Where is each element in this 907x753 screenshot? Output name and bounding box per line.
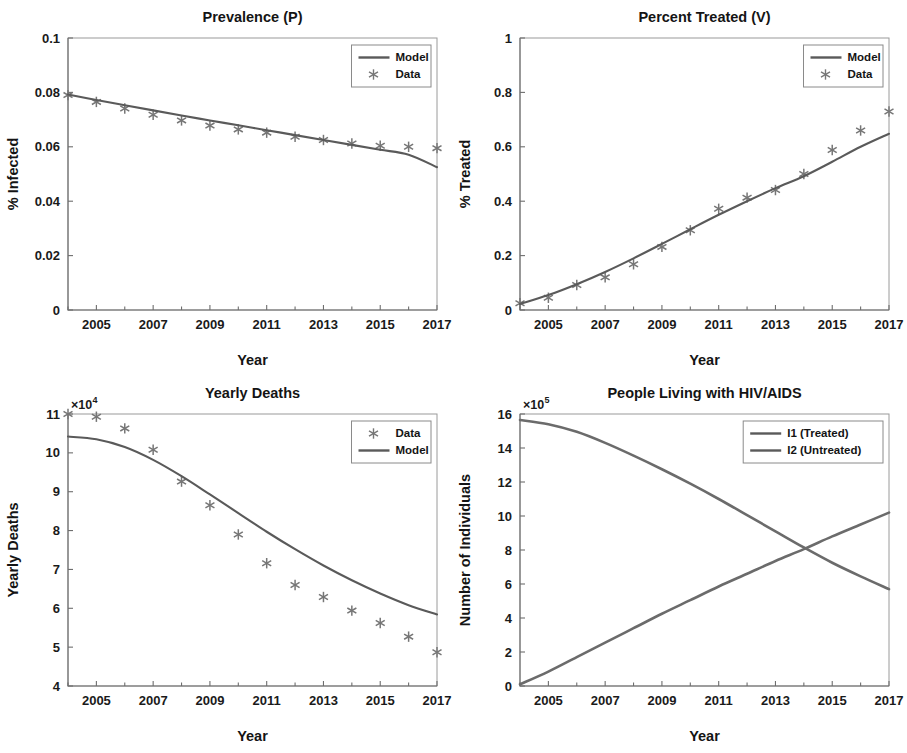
y-tick-label: 2	[505, 645, 512, 660]
chart-legend[interactable]: DataModel	[352, 421, 432, 463]
x-tick-label: 2017	[875, 317, 904, 332]
legend-label: Data	[396, 427, 422, 439]
y-tick-label: 5	[53, 640, 60, 655]
x-tick-label: 2015	[818, 317, 847, 332]
x-axis-label: Year	[689, 352, 720, 368]
x-tick-label: 2009	[647, 317, 676, 332]
y-tick-label: 0.02	[35, 248, 60, 263]
legend-label: Model	[396, 51, 429, 63]
y-axis-label: Number of Individuals	[457, 474, 473, 626]
x-tick-label: 2009	[647, 693, 676, 708]
y-tick-label: 1	[505, 31, 512, 46]
svg-text:×10: ×10	[71, 398, 92, 412]
y-tick-label: 0.08	[35, 85, 60, 100]
panel-people-living-with-hiv-aids: People Living with HIV/AIDS×105200520072…	[452, 376, 907, 753]
axis-exponent-label: ×105	[523, 395, 550, 412]
x-axis-label: Year	[237, 352, 268, 368]
legend-label: I1 (Treated)	[787, 427, 849, 439]
chart-title: Prevalence (P)	[203, 9, 303, 25]
x-tick-label: 2011	[253, 693, 281, 708]
y-tick-label: 4	[53, 679, 61, 694]
y-tick-label: 0.1	[42, 31, 60, 46]
chart-title: People Living with HIV/AIDS	[607, 385, 801, 401]
x-tick-label: 2013	[761, 693, 790, 708]
x-tick-label: 2009	[195, 693, 224, 708]
chart-treated: Percent Treated (V)200520072009201120132…	[452, 0, 907, 377]
x-axis-label: Year	[689, 728, 720, 744]
legend-label: I2 (Untreated)	[787, 444, 861, 456]
panel-yearly-deaths: Yearly Deaths×10420052007200920112013201…	[0, 376, 455, 753]
y-tick-label: 6	[505, 577, 512, 592]
x-tick-label: 2011	[253, 317, 281, 332]
x-tick-label: 2007	[139, 693, 168, 708]
y-axis-label: % Infected	[5, 138, 21, 211]
y-tick-label: 7	[53, 562, 60, 577]
x-tick-label: 2007	[591, 693, 620, 708]
x-tick-label: 2005	[534, 317, 563, 332]
x-tick-label: 2007	[591, 317, 620, 332]
chart-plwha: People Living with HIV/AIDS×105200520072…	[452, 376, 907, 753]
y-tick-label: 0	[505, 303, 512, 318]
y-tick-label: 0	[53, 303, 60, 318]
x-tick-label: 2013	[309, 693, 338, 708]
y-axis-ticks: 00.020.040.060.080.1	[35, 31, 73, 318]
y-tick-label: 11	[46, 407, 60, 422]
legend-label: Data	[848, 68, 874, 80]
y-tick-label: 16	[498, 407, 512, 422]
x-tick-label: 2007	[139, 317, 168, 332]
x-tick-label: 2015	[366, 693, 395, 708]
legend-label: Data	[396, 68, 422, 80]
x-tick-label: 2005	[82, 317, 111, 332]
x-tick-label: 2005	[534, 693, 563, 708]
x-tick-label: 2005	[82, 693, 111, 708]
y-tick-label: 0.04	[35, 194, 61, 209]
legend-label: Model	[396, 444, 429, 456]
x-tick-label: 2015	[818, 693, 847, 708]
y-tick-label: 8	[53, 523, 60, 538]
axis-exponent-label: ×104	[71, 395, 98, 412]
chart-prevalence: Prevalence (P)20052007200920112013201520…	[0, 0, 455, 377]
x-tick-label: 2017	[423, 693, 452, 708]
y-tick-label: 14	[498, 441, 513, 456]
panel-prevalence: Prevalence (P)20052007200920112013201520…	[0, 0, 455, 377]
chart-legend[interactable]: I1 (Treated)I2 (Untreated)	[743, 421, 883, 463]
y-tick-label: 0.2	[494, 248, 512, 263]
y-tick-label: 0.06	[35, 139, 60, 154]
svg-text:×10: ×10	[523, 398, 544, 412]
svg-text:4: 4	[93, 395, 98, 405]
x-tick-label: 2009	[195, 317, 224, 332]
x-tick-label: 2011	[705, 317, 733, 332]
svg-text:5: 5	[545, 395, 550, 405]
y-tick-label: 4	[505, 611, 513, 626]
x-tick-label: 2015	[366, 317, 395, 332]
chart-title: Yearly Deaths	[205, 385, 300, 401]
y-tick-label: 8	[505, 543, 512, 558]
y-tick-label: 0.6	[494, 139, 512, 154]
chart-legend[interactable]: ModelData	[352, 45, 432, 87]
figure-canvas: Prevalence (P)20052007200920112013201520…	[0, 0, 907, 753]
panel-percent-treated: Percent Treated (V)200520072009201120132…	[452, 0, 907, 377]
chart-yearly-deaths: Yearly Deaths×10420052007200920112013201…	[0, 376, 455, 753]
chart-title: Percent Treated (V)	[638, 9, 770, 25]
y-tick-label: 12	[498, 475, 512, 490]
y-axis-label: % Treated	[457, 140, 473, 209]
x-tick-label: 2013	[761, 317, 790, 332]
x-tick-label: 2017	[423, 317, 452, 332]
x-tick-label: 2017	[875, 693, 904, 708]
y-tick-label: 9	[53, 484, 60, 499]
legend-label: Model	[848, 51, 881, 63]
x-tick-label: 2013	[309, 317, 338, 332]
x-tick-label: 2011	[705, 693, 733, 708]
y-tick-label: 10	[498, 509, 512, 524]
y-tick-label: 0	[505, 679, 512, 694]
y-tick-label: 10	[46, 445, 60, 460]
y-tick-label: 6	[53, 601, 60, 616]
y-axis-label: Yearly Deaths	[5, 502, 21, 597]
chart-legend[interactable]: ModelData	[804, 45, 884, 87]
y-tick-label: 0.8	[494, 85, 512, 100]
x-axis-label: Year	[237, 728, 268, 744]
y-tick-label: 0.4	[494, 194, 513, 209]
